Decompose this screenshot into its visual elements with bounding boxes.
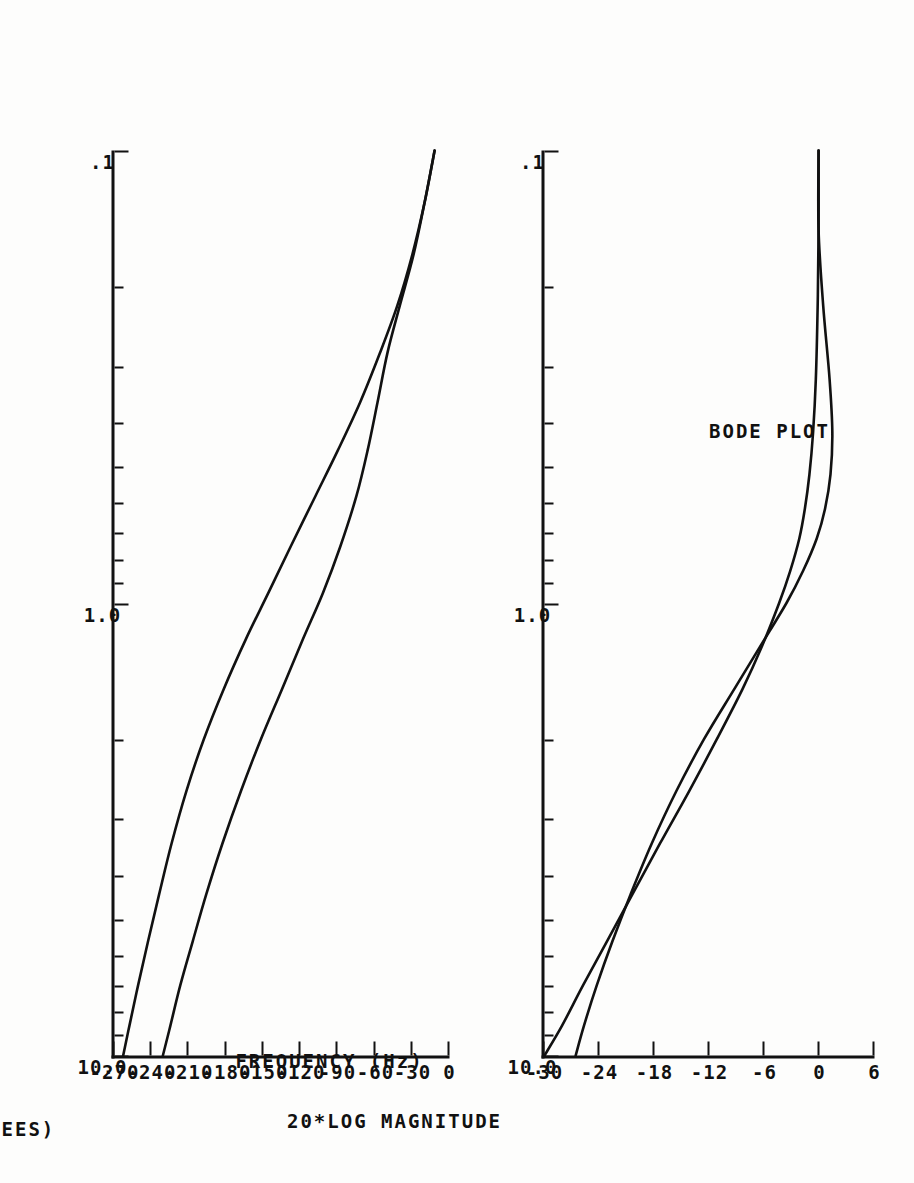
data-curve [162,150,434,1055]
rotated-plot-canvas: BODE PLOT 20*LOG MAGNITUDE .11.010.060-6… [0,0,914,1183]
y-tick-label: 0 [813,1060,825,1082]
y-tick-label: -30 [393,1060,430,1082]
curve-layer [540,150,874,1059]
phase-plot-area: .11.010.00-30-60-90-120-150-180-210-240-… [114,150,449,1055]
data-curve [575,150,832,1055]
magnitude-plot-area: .11.010.060-6-12-18-24-30 [544,150,874,1055]
bode-plot-figure: BODE PLOT 20*LOG MAGNITUDE .11.010.060-6… [0,0,914,1183]
y-tick-label: 6 [868,1060,880,1082]
y-tick-label: 0 [443,1060,455,1082]
y-tick-label: -6 [752,1060,777,1082]
data-curve [123,150,434,1055]
y-tick-label: -12 [690,1060,727,1082]
y-tick-label: -30 [525,1060,562,1082]
y-tick-label: -18 [635,1060,672,1082]
curve-layer [110,150,449,1059]
y-tick-label: -270 [89,1060,139,1082]
y-tick-label: -24 [580,1060,617,1082]
y-tick-label: -60 [356,1060,393,1082]
phase-axis-title: PHASE (DEGREES) [0,1117,55,1139]
phase-panel: PHASE (DEGREES) FREQUENCY (Hz) .11.010.0… [4,0,474,1183]
data-curve [544,150,818,1055]
magnitude-panel: BODE PLOT 20*LOG MAGNITUDE .11.010.060-6… [484,0,914,1183]
